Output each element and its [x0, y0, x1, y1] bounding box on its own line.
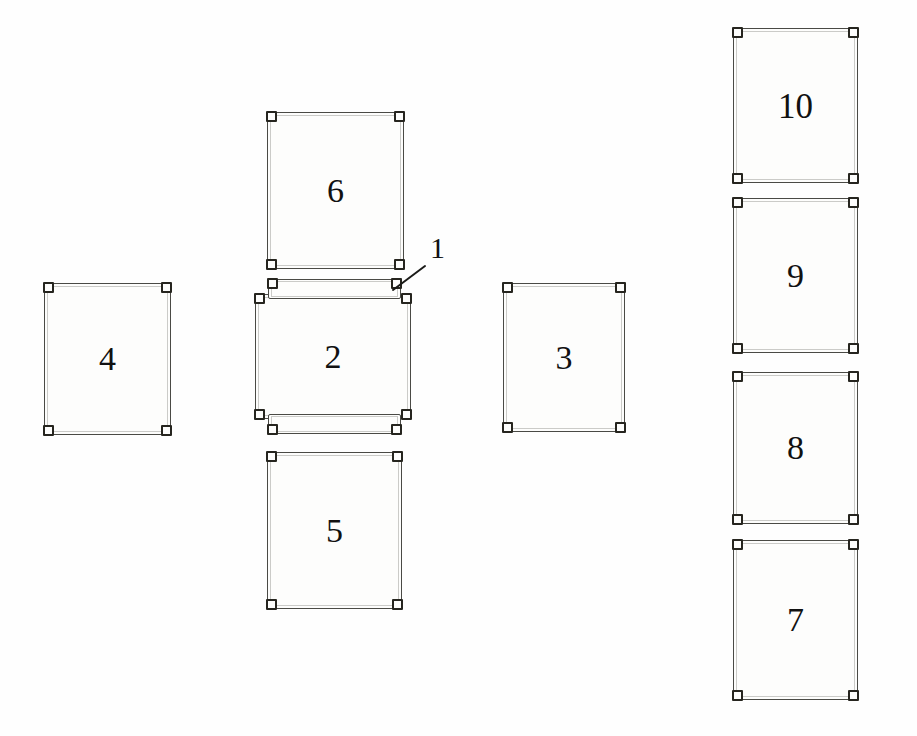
callout-label-1: 1 — [430, 233, 445, 263]
panel-9[interactable]: 9 — [733, 198, 858, 353]
corner-bracket-icon — [732, 197, 743, 208]
corner-bracket-icon — [43, 282, 54, 293]
corner-bracket-icon — [848, 371, 859, 382]
corner-bracket-icon — [254, 409, 265, 420]
flange-top[interactable] — [268, 279, 401, 299]
corner-bracket-icon — [848, 343, 859, 354]
panel-label-8: 8 — [734, 431, 857, 465]
corner-bracket-icon — [266, 111, 277, 122]
flange-bottom[interactable] — [268, 414, 401, 434]
panel-label-9: 9 — [734, 259, 857, 293]
corner-bracket-icon — [401, 293, 412, 304]
corner-bracket-icon — [43, 425, 54, 436]
panel-8[interactable]: 8 — [733, 372, 858, 524]
corner-bracket-icon — [502, 282, 513, 293]
corner-bracket-icon — [732, 539, 743, 550]
corner-bracket-icon — [266, 451, 277, 462]
corner-bracket-icon — [254, 293, 265, 304]
panel-label-6: 6 — [268, 174, 403, 208]
corner-bracket-icon — [732, 690, 743, 701]
corner-bracket-icon — [161, 282, 172, 293]
corner-bracket-icon — [392, 599, 403, 610]
corner-bracket-icon — [732, 343, 743, 354]
corner-bracket-icon — [848, 690, 859, 701]
panel-label-3: 3 — [504, 341, 624, 375]
corner-bracket-icon — [732, 371, 743, 382]
panel-6[interactable]: 6 — [267, 112, 404, 269]
corner-bracket-icon — [848, 514, 859, 525]
corner-bracket-icon — [732, 27, 743, 38]
corner-bracket-icon — [267, 278, 278, 289]
corner-bracket-icon — [502, 422, 513, 433]
corner-bracket-icon — [266, 259, 277, 270]
panel-10[interactable]: 10 — [733, 28, 858, 183]
corner-bracket-icon — [732, 173, 743, 184]
panel-label-10: 10 — [734, 88, 857, 123]
corner-bracket-icon — [615, 282, 626, 293]
panel-label-5: 5 — [268, 514, 401, 548]
corner-bracket-icon — [266, 599, 277, 610]
drawing-canvas: 4 6 2 5 3 — [0, 0, 917, 736]
panel-3[interactable]: 3 — [503, 283, 625, 432]
panel-label-4: 4 — [45, 342, 170, 376]
panel-2[interactable]: 2 — [255, 294, 411, 419]
panel-5[interactable]: 5 — [267, 452, 402, 609]
panel-label-7: 7 — [734, 603, 857, 637]
corner-bracket-icon — [161, 425, 172, 436]
panel-label-2: 2 — [256, 340, 410, 374]
corner-bracket-icon — [401, 409, 412, 420]
corner-bracket-icon — [848, 27, 859, 38]
corner-bracket-icon — [848, 173, 859, 184]
corner-bracket-icon — [615, 422, 626, 433]
corner-bracket-icon — [392, 451, 403, 462]
corner-bracket-icon — [391, 278, 402, 289]
corner-bracket-icon — [391, 424, 402, 435]
corner-bracket-icon — [267, 424, 278, 435]
corner-bracket-icon — [848, 197, 859, 208]
corner-bracket-icon — [394, 259, 405, 270]
corner-bracket-icon — [394, 111, 405, 122]
corner-bracket-icon — [732, 514, 743, 525]
panel-7[interactable]: 7 — [733, 540, 858, 700]
corner-bracket-icon — [848, 539, 859, 550]
panel-4[interactable]: 4 — [44, 283, 171, 435]
